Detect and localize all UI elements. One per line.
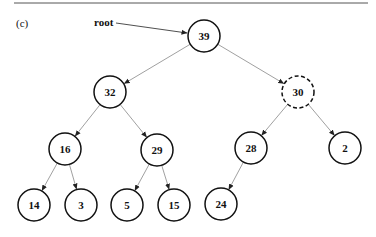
- tree-node-28: 28: [235, 132, 267, 164]
- binary-heap-diagram: (c) root 393230162928214351524: [0, 0, 376, 237]
- tree-edge-28-24: [229, 162, 244, 189]
- tree-node-14: 14: [18, 189, 50, 221]
- node-value: 24: [216, 198, 228, 210]
- tree-edge-16-3: [69, 164, 76, 189]
- tree-node-15: 15: [158, 189, 190, 221]
- tree-edge-29-15: [162, 165, 169, 189]
- tree-node-30: 30: [282, 76, 314, 108]
- tree-edge-32-29: [120, 104, 147, 137]
- tree-edges: [42, 44, 334, 190]
- node-value: 3: [78, 199, 84, 211]
- tree-node-32: 32: [94, 76, 126, 108]
- tree-node-39: 39: [188, 20, 220, 52]
- tree-node-2: 2: [329, 132, 361, 164]
- panel-label: (c): [16, 17, 29, 30]
- tree-node-29: 29: [141, 134, 173, 166]
- tree-nodes: 393230162928214351524: [18, 20, 361, 221]
- tree-edge-39-32: [124, 44, 190, 83]
- tree-edge-16-14: [42, 163, 57, 191]
- node-value: 14: [29, 199, 41, 211]
- tree-edge-32-16: [75, 105, 100, 136]
- node-value: 39: [199, 30, 211, 42]
- node-value: 5: [124, 199, 130, 211]
- root-pointer-arrow: [116, 23, 187, 33]
- tree-node-5: 5: [111, 189, 143, 221]
- node-value: 15: [169, 199, 181, 211]
- tree-edge-30-28: [262, 104, 288, 135]
- node-value: 32: [105, 86, 117, 98]
- tree-edge-39-30: [218, 44, 284, 83]
- tree-node-24: 24: [205, 188, 237, 220]
- root-pointer-label: root: [94, 16, 114, 28]
- tree-edge-29-5: [135, 164, 149, 191]
- node-value: 28: [246, 142, 258, 154]
- node-value: 2: [342, 142, 348, 154]
- tree-node-3: 3: [65, 189, 97, 221]
- node-value: 30: [293, 86, 305, 98]
- node-value: 16: [60, 143, 72, 155]
- tree-node-16: 16: [49, 133, 81, 165]
- node-value: 29: [152, 144, 164, 156]
- tree-edge-30-2: [308, 104, 334, 135]
